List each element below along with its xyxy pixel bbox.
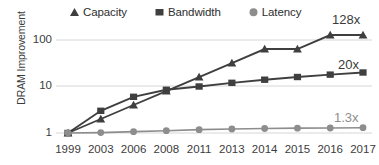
data-point-latency-2017 (360, 124, 367, 131)
series-capacity (64, 31, 368, 137)
data-point-bandwidth-2003 (97, 108, 104, 114)
data-point-bandwidth-2017 (359, 69, 366, 75)
x-axis-tick-labels: 1999200320062008201120132014201520162017 (56, 143, 376, 161)
series-line-latency (68, 128, 363, 133)
data-point-latency-2011 (196, 126, 203, 133)
data-point-bandwidth-2008 (163, 87, 170, 93)
gridlines (56, 40, 372, 133)
data-point-bandwidth-2013 (228, 80, 235, 86)
data-point-latency-2008 (163, 127, 170, 134)
data-point-bandwidth-2016 (327, 71, 334, 77)
series-line-bandwidth (68, 73, 363, 134)
annotation-latency-1-3x: 1.3x (334, 110, 359, 125)
series-latency (65, 124, 367, 136)
data-point-latency-2015 (294, 125, 301, 132)
data-point-bandwidth-2006 (130, 94, 137, 100)
data-point-bandwidth-2011 (196, 83, 203, 89)
plot-area (0, 0, 379, 165)
data-point-latency-2013 (228, 126, 235, 133)
data-point-bandwidth-2014 (261, 77, 268, 83)
annotation-capacity-128x: 128x (332, 12, 360, 27)
data-point-latency-2016 (327, 125, 334, 132)
data-series-layer (64, 31, 368, 137)
data-point-latency-2006 (130, 128, 137, 135)
series-bandwidth (64, 69, 366, 136)
annotation-bandwidth-20x: 20x (338, 57, 359, 72)
data-point-latency-1999 (65, 130, 72, 137)
x-tick-2017: 2017 (343, 143, 379, 155)
data-point-bandwidth-2015 (294, 74, 301, 80)
dram-improvement-chart: Capacity Bandwidth Latency DRAM Improvem… (0, 0, 379, 165)
data-point-latency-2014 (261, 125, 268, 132)
data-point-latency-2003 (97, 129, 104, 136)
